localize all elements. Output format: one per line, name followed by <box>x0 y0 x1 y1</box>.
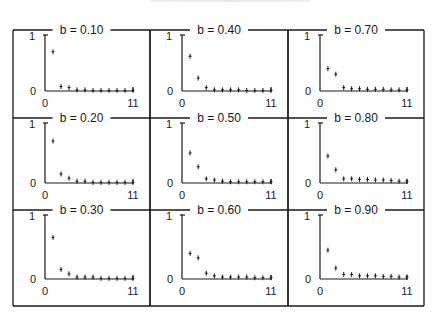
data-point <box>406 87 409 92</box>
y-tick-label: 1 <box>29 210 35 222</box>
panel-0.40: b = 0.4010011 <box>150 23 288 118</box>
data-point <box>261 88 264 93</box>
data-point <box>52 139 55 144</box>
data-point <box>390 178 393 183</box>
data-point <box>52 49 55 54</box>
data-point <box>124 180 127 185</box>
y-tick-label: 0 <box>30 177 36 189</box>
data-point <box>253 88 256 93</box>
data-point <box>326 248 329 253</box>
data-point <box>326 66 329 71</box>
y-tick-label: 0 <box>167 85 173 97</box>
panel-0.70: b = 0.7010011 <box>288 23 424 118</box>
data-point <box>100 88 103 93</box>
data-point <box>124 88 127 93</box>
y-tick-label: 0 <box>167 177 173 189</box>
panel-title: b = 0.30 <box>60 203 104 217</box>
data-point <box>382 274 385 279</box>
x-tick-label: 0 <box>317 285 323 297</box>
y-tick-label: 1 <box>166 210 172 222</box>
data-point <box>197 255 200 260</box>
y-tick-label: 1 <box>166 118 172 130</box>
data-point <box>213 178 216 183</box>
panel-title: b = 0.10 <box>60 23 104 37</box>
data-point <box>334 72 337 77</box>
data-point <box>366 177 369 182</box>
y-tick-label: 1 <box>304 210 310 222</box>
data-point <box>390 274 393 279</box>
data-point <box>189 54 192 59</box>
data-point <box>68 85 71 90</box>
data-point <box>189 251 192 256</box>
panel-title: b = 0.60 <box>197 203 241 217</box>
data-point <box>350 272 353 277</box>
y-tick-label: 1 <box>304 118 310 130</box>
y-tick-label: 1 <box>304 30 310 42</box>
data-point <box>60 267 63 272</box>
data-point <box>229 87 232 92</box>
panel-title: b = 0.50 <box>197 111 241 125</box>
data-point <box>197 164 200 169</box>
y-tick-label: 1 <box>29 118 35 130</box>
data-point <box>398 87 401 92</box>
data-point <box>132 276 135 281</box>
data-point <box>221 87 224 92</box>
panel-title: b = 0.80 <box>334 111 378 125</box>
panel-0.60: b = 0.6010011 <box>150 203 288 306</box>
panel-title: b = 0.70 <box>334 23 378 37</box>
data-point <box>270 88 273 93</box>
data-point <box>132 88 135 93</box>
x-tick-label: 0 <box>42 97 48 109</box>
data-point <box>84 87 87 92</box>
data-point <box>334 167 337 172</box>
panel-title: b = 0.40 <box>197 23 241 37</box>
x-tick-label: 0 <box>42 285 48 297</box>
x-tick-label: 11 <box>127 189 138 201</box>
y-tick-label: 0 <box>305 177 311 189</box>
data-point <box>326 154 329 159</box>
data-point <box>213 87 216 92</box>
data-point <box>116 180 119 185</box>
data-point <box>245 88 248 93</box>
panel-0.10: b = 0.1010011 <box>13 23 150 118</box>
data-point <box>205 85 208 90</box>
x-tick-label: 11 <box>265 285 276 297</box>
x-tick-label: 0 <box>317 97 323 109</box>
x-tick-label: 0 <box>179 285 185 297</box>
data-point <box>108 88 111 93</box>
x-tick-label: 0 <box>179 189 185 201</box>
data-point <box>358 177 361 182</box>
data-point <box>124 276 127 281</box>
data-point <box>92 88 95 93</box>
data-point <box>205 176 208 181</box>
data-point <box>197 76 200 81</box>
data-point <box>342 176 345 181</box>
data-point <box>100 180 103 185</box>
y-tick-label: 0 <box>167 273 173 285</box>
data-point <box>100 276 103 281</box>
x-tick-label: 0 <box>179 97 185 109</box>
x-tick-label: 11 <box>401 285 412 297</box>
x-tick-label: 11 <box>127 285 138 297</box>
data-point <box>52 235 55 240</box>
small-multiples-figure: b = 0.1010011b = 0.4010011b = 0.7010011b… <box>0 0 435 319</box>
panel-0.30: b = 0.3010011 <box>13 203 150 306</box>
panel-0.50: b = 0.5010011 <box>150 111 288 210</box>
panel-0.80: b = 0.8010011 <box>288 111 424 210</box>
data-point <box>92 180 95 185</box>
data-point <box>108 276 111 281</box>
data-point <box>116 88 119 93</box>
x-tick-label: 11 <box>401 97 412 109</box>
x-tick-label: 11 <box>127 97 138 109</box>
data-point <box>342 272 345 277</box>
data-point <box>68 176 71 181</box>
x-tick-label: 11 <box>265 189 276 201</box>
data-point <box>132 180 135 185</box>
y-tick-label: 0 <box>305 85 311 97</box>
y-tick-label: 0 <box>305 273 311 285</box>
data-point <box>213 273 216 278</box>
panel-0.20: b = 0.2010011 <box>13 111 150 210</box>
data-point <box>334 266 337 271</box>
x-tick-label: 11 <box>401 189 412 201</box>
data-point <box>60 84 63 89</box>
